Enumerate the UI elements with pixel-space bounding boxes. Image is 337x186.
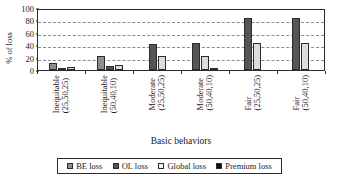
bar-group [38,10,86,70]
legend-swatch-icon [216,163,222,169]
x-category-label: Moderate(50,40,10) [181,75,229,133]
y-tick-label: 80 [26,17,35,26]
x-axis-title: Basic behaviors [37,136,325,146]
x-category-label: Fair(50,40,10) [277,75,325,133]
legend-swatch-icon [158,163,164,169]
bar [201,56,209,70]
x-category-label-text: Fair(25,50,25) [244,75,262,110]
x-tick-mark [133,71,134,74]
y-tick-label: 0 [30,67,34,76]
x-category-label: Inequitable(50,40,10) [85,75,133,133]
bar [106,66,114,70]
x-tick-mark [229,71,230,74]
y-tick-label: 100 [21,5,34,14]
chart-legend: BE lossOL lossGlobal lossPremium loss [57,158,282,174]
bar [149,44,157,70]
bar-group [133,10,181,70]
legend-swatch-icon [67,163,73,169]
bar-groups [38,10,324,70]
x-category-label: Inequitable(25,50,25) [37,75,85,133]
bar [49,63,57,70]
x-tick-mark [37,71,38,74]
x-tick-mark [277,71,278,74]
x-tick-mark [181,71,182,74]
bar [97,56,105,70]
bar-group [229,10,277,70]
x-category-label: Moderate(25,50,25) [133,75,181,133]
legend-item[interactable]: Premium loss [216,161,272,171]
legend-swatch-icon [113,163,119,169]
legend-item-label: Global loss [167,161,206,171]
bar-group [181,10,229,70]
bar-chart-figure: % of loss 020406080100 Inequitable(25,50… [0,0,337,186]
bar-group [276,10,324,70]
y-tick-label: 20 [26,54,35,63]
bar [253,43,261,70]
bar [292,18,300,70]
bar [67,67,75,70]
x-category-label-text: Inequitable(25,50,25) [52,75,70,113]
bar [158,56,166,70]
x-category-label-text: Inequitable(50,40,10) [100,75,118,113]
y-tick-label: 40 [26,42,35,51]
bar [115,65,123,70]
legend-item[interactable]: OL loss [113,161,148,171]
x-category-label: Fair(25,50,25) [229,75,277,133]
legend-item[interactable]: BE loss [67,161,102,171]
y-axis-tick-labels: 020406080100 [14,9,36,71]
legend-item-label: BE loss [76,161,102,171]
x-category-label-text: Fair(50,40,10) [292,75,310,110]
y-tick-label: 60 [26,30,35,39]
x-axis-category-labels: Inequitable(25,50,25)Inequitable(50,40,1… [37,75,325,133]
x-category-label-text: Moderate(25,50,25) [148,75,166,110]
plot-area [37,9,325,71]
bar-group [86,10,134,70]
x-tick-mark [325,71,326,74]
x-tick-mark [85,71,86,74]
x-category-label-text: Moderate(50,40,10) [196,75,214,110]
bar [210,68,218,70]
bar [58,68,66,70]
legend-item-label: Premium loss [225,161,272,171]
bar [192,43,200,70]
y-axis-title-text: % of loss [4,32,14,64]
legend-item[interactable]: Global loss [158,161,206,171]
bar [244,18,252,70]
bar [301,43,309,70]
legend-item-label: OL loss [122,161,148,171]
